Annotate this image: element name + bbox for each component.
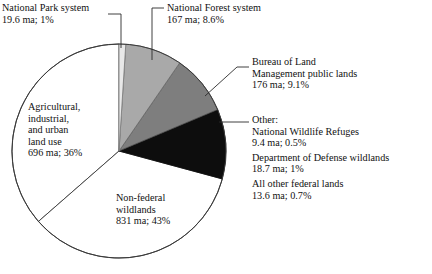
label-agricultural-line4: land use (28, 136, 82, 148)
label-blm-name-line2: Management public lands (252, 68, 357, 80)
label-national-park: National Park system 19.6 ma; 1% (2, 2, 89, 25)
label-other-heading: Other: (252, 114, 389, 126)
label-nonfederal-line1: Non-federal (116, 192, 170, 204)
label-blm-name-line1: Bureau of Land (252, 56, 357, 68)
label-agricultural-figure: 696 ma; 36% (28, 147, 82, 159)
label-agricultural-line1: Agricultural, (28, 101, 82, 113)
label-national-park-figure: 19.6 ma; 1% (2, 14, 89, 26)
label-other-item1-figure: 9.4 ma; 0.5% (252, 137, 389, 149)
leader-line-blm (205, 67, 249, 96)
label-other-item1-name: National Wildlife Refuges (252, 126, 389, 138)
label-agricultural-line2: industrial, (28, 113, 82, 125)
label-other-item3-name: All other federal lands (252, 178, 389, 190)
label-blm-figure: 176 ma; 9.1% (252, 79, 357, 91)
label-agricultural: Agricultural, industrial, and urban land… (28, 101, 82, 159)
leader-line-national-park (108, 14, 121, 48)
label-national-forest-figure: 167 ma; 8.6% (167, 14, 261, 26)
label-other-item2-figure: 18.7 ma; 1% (252, 163, 389, 175)
label-national-forest: National Forest system 167 ma; 8.6% (167, 2, 261, 25)
label-nonfederal-line2: wildlands (116, 204, 170, 216)
label-nonfederal-figure: 831 ma; 43% (116, 215, 170, 227)
label-blm: Bureau of Land Management public lands 1… (252, 56, 357, 91)
label-other-item3-figure: 13.6 ma; 0.7% (252, 190, 389, 202)
label-national-forest-name: National Forest system (167, 2, 261, 14)
label-national-park-name: National Park system (2, 2, 89, 14)
label-other: Other: National Wildlife Refuges 9.4 ma;… (252, 114, 389, 201)
label-agricultural-line3: and urban (28, 124, 82, 136)
label-other-item2-name: Department of Defense wildlands (252, 152, 389, 164)
label-nonfederal: Non-federal wildlands 831 ma; 43% (116, 192, 170, 227)
